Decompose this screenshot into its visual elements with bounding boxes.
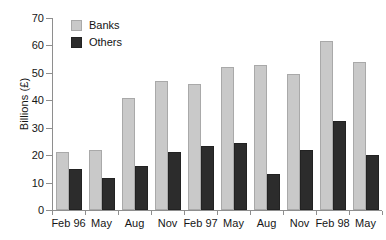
bar-others-3 [168, 152, 181, 210]
legend-item-others: Others [71, 35, 161, 50]
others-swatch-icon [71, 37, 82, 48]
x-tick-mark [184, 211, 185, 215]
bar-chart: Billions (£) 010203040506070 Feb 96MayAu… [0, 0, 386, 240]
x-tick-mark [217, 211, 218, 215]
y-tick-label: 50 [0, 68, 44, 79]
bar-others-6 [267, 174, 280, 210]
x-tick-mark [52, 211, 53, 215]
legend-label-banks: Banks [89, 20, 120, 31]
x-tick-mark [250, 211, 251, 215]
bar-others-5 [234, 143, 247, 210]
bar-banks-9 [353, 62, 366, 210]
y-tick-label: 0 [0, 205, 44, 216]
bar-banks-8 [320, 41, 333, 210]
x-tick-mark [151, 211, 152, 215]
x-tick-mark [316, 211, 317, 215]
bar-banks-7 [287, 74, 300, 210]
bar-banks-5 [221, 67, 234, 210]
y-tick-label: 10 [0, 178, 44, 189]
bar-banks-3 [155, 81, 168, 210]
bar-others-2 [135, 166, 148, 210]
chart-legend: Banks Others [71, 18, 161, 52]
y-tick-label: 60 [0, 40, 44, 51]
bar-others-1 [102, 178, 115, 210]
y-tick-label: 40 [0, 95, 44, 106]
bar-others-8 [333, 121, 346, 210]
x-tick-mark [349, 211, 350, 215]
bar-banks-6 [254, 65, 267, 210]
banks-swatch-icon [71, 20, 82, 31]
bar-banks-4 [188, 84, 201, 210]
bar-banks-2 [122, 98, 135, 210]
y-tick-label: 30 [0, 123, 44, 134]
legend-label-others: Others [89, 37, 122, 48]
x-tick-mark [382, 211, 383, 215]
x-tick-mark [85, 211, 86, 215]
bar-others-9 [366, 155, 379, 210]
y-tick-label: 70 [0, 13, 44, 24]
legend-item-banks: Banks [71, 18, 161, 33]
bar-others-0 [69, 169, 82, 210]
x-tick-mark [283, 211, 284, 215]
x-tick-label: May [341, 218, 386, 229]
bar-others-7 [300, 150, 313, 210]
y-tick-label: 20 [0, 150, 44, 161]
bar-banks-0 [56, 152, 69, 210]
bar-others-4 [201, 146, 214, 210]
bar-banks-1 [89, 150, 102, 210]
x-tick-mark [118, 211, 119, 215]
